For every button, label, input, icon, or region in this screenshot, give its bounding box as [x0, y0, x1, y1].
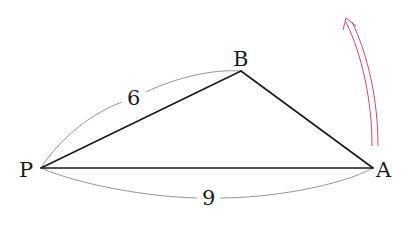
vertex-label-b: B [233, 47, 248, 71]
length-label-pb: 6 [127, 86, 140, 110]
vertex-label-a: A [375, 158, 392, 182]
diagram-canvas: B P A 6 9 [0, 0, 410, 227]
rotation-arrow-icon [343, 18, 378, 146]
triangle-pba [41, 71, 373, 168]
vertex-label-p: P [19, 158, 33, 182]
segment-pb [41, 71, 241, 168]
segment-ba [241, 71, 373, 168]
length-label-pa: 9 [202, 186, 215, 210]
